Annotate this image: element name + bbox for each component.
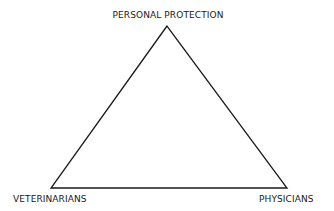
- triangle-shape: [0, 0, 334, 211]
- vertex-label-personal-protection: PERSONAL PROTECTION: [108, 10, 228, 20]
- triangle-outline: [51, 26, 287, 188]
- vertex-label-physicians: PHYSICIANS: [259, 194, 314, 204]
- vertex-label-veterinarians: VETERINARIANS: [13, 194, 87, 204]
- triangle-diagram: PERSONAL PROTECTION VETERINARIANS PHYSIC…: [0, 0, 334, 211]
